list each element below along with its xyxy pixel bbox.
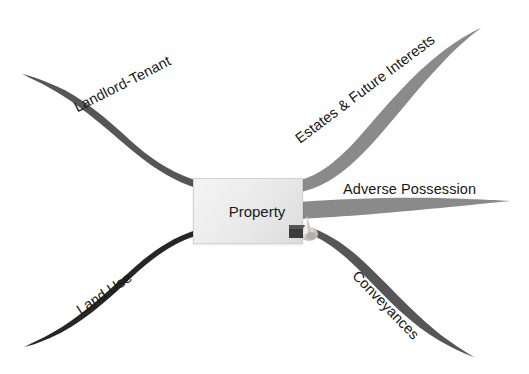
branch-label-adverse-possession[interactable]: Adverse Possession bbox=[343, 181, 476, 197]
central-node-label: Property bbox=[194, 179, 302, 243]
branch-shape-conveyances[interactable] bbox=[300, 224, 474, 357]
pin-ornament-icon bbox=[287, 211, 321, 243]
branch-shape-adverse-possession[interactable] bbox=[300, 198, 510, 219]
mind-map-canvas: Landlord-Tenant Estates & Future Interes… bbox=[0, 0, 529, 374]
